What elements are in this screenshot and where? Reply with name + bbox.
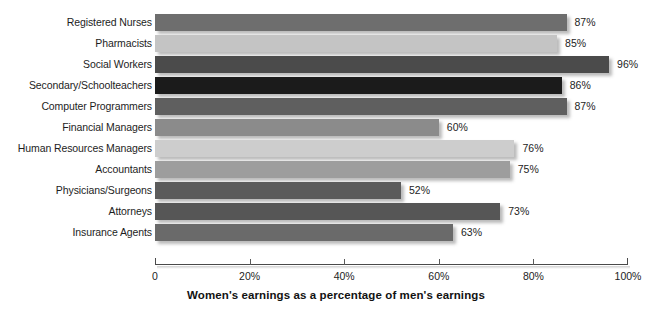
bar xyxy=(155,35,557,52)
bar-value-label: 73% xyxy=(508,205,529,217)
bar-row: 96% xyxy=(155,56,628,73)
bar xyxy=(155,119,439,136)
x-axis-left-cap xyxy=(155,258,156,265)
category-label: Secondary/Schoolteachers xyxy=(0,80,152,91)
category-label: Financial Managers xyxy=(0,122,152,133)
bar xyxy=(155,140,514,157)
x-axis-tick xyxy=(344,259,345,265)
bar-value-label: 96% xyxy=(617,58,638,70)
x-axis-tick xyxy=(533,259,534,265)
bar xyxy=(155,14,567,31)
bar-value-label: 52% xyxy=(409,184,430,196)
x-axis-tick-label: 40% xyxy=(334,270,355,282)
bar-row: 76% xyxy=(155,140,628,157)
bar-row: 75% xyxy=(155,161,628,178)
category-label: Pharmacists xyxy=(0,38,152,49)
category-label: Human Resources Managers xyxy=(0,143,152,154)
x-axis-tick-label: 100% xyxy=(615,270,642,282)
plot-area: 87%85%96%86%87%60%76%75%52%73%63% xyxy=(155,14,628,266)
x-axis-tick-label: 20% xyxy=(239,270,260,282)
x-axis-shadow xyxy=(157,266,630,269)
bar-value-label: 87% xyxy=(575,100,596,112)
category-label: Accountants xyxy=(0,164,152,175)
bar-value-label: 85% xyxy=(565,37,586,49)
bar-row: 87% xyxy=(155,98,628,115)
bar xyxy=(155,77,562,94)
bar-row: 87% xyxy=(155,14,628,31)
bar xyxy=(155,161,510,178)
category-label: Computer Programmers xyxy=(0,101,152,112)
x-axis-tick-label: 60% xyxy=(428,270,449,282)
category-axis-labels: Registered NursesPharmacistsSocial Worke… xyxy=(0,14,152,245)
bar-chart: Registered NursesPharmacistsSocial Worke… xyxy=(0,0,672,311)
bar-value-label: 76% xyxy=(522,142,543,154)
x-axis-tick xyxy=(250,259,251,265)
bar-row: 52% xyxy=(155,182,628,199)
x-axis-title: Women's earnings as a percentage of men'… xyxy=(0,289,672,301)
bar-row: 73% xyxy=(155,203,628,220)
x-axis-tick-label: 0 xyxy=(152,270,158,282)
x-axis-tick-label: 80% xyxy=(523,270,544,282)
x-axis-right-cap xyxy=(627,258,628,265)
x-axis-line xyxy=(155,264,628,265)
bar-value-label: 63% xyxy=(461,226,482,238)
category-label: Insurance Agents xyxy=(0,227,152,238)
bar-row: 86% xyxy=(155,77,628,94)
bar xyxy=(155,203,500,220)
category-label: Registered Nurses xyxy=(0,17,152,28)
category-label: Attorneys xyxy=(0,206,152,217)
bar xyxy=(155,224,453,241)
bar xyxy=(155,56,609,73)
bar-row: 60% xyxy=(155,119,628,136)
bar-value-label: 60% xyxy=(447,121,468,133)
bar-value-label: 75% xyxy=(518,163,539,175)
category-label: Physicians/Surgeons xyxy=(0,185,152,196)
category-label: Social Workers xyxy=(0,59,152,70)
bar xyxy=(155,98,567,115)
bar-value-label: 87% xyxy=(575,16,596,28)
x-axis-tick xyxy=(439,259,440,265)
bar xyxy=(155,182,401,199)
bar-value-label: 86% xyxy=(570,79,591,91)
bar-row: 63% xyxy=(155,224,628,241)
bar-row: 85% xyxy=(155,35,628,52)
